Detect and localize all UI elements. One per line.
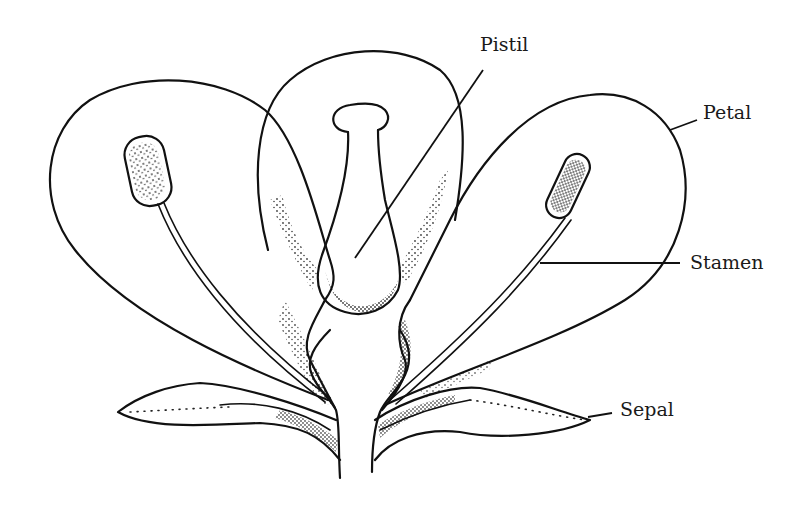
- petal-leader-line: [670, 120, 697, 130]
- right-petal: [382, 94, 685, 410]
- sepal-label: Sepal: [620, 400, 674, 419]
- stamen-label: Stamen: [690, 253, 763, 272]
- pistil-leader-line: [355, 70, 483, 258]
- sepal-leader-line: [588, 413, 612, 417]
- right-sepal: [375, 388, 590, 460]
- pistil-label: Pistil: [480, 35, 528, 54]
- petal-label: Petal: [703, 103, 751, 122]
- left-sepal: [118, 383, 340, 460]
- flower-diagram: [0, 0, 809, 507]
